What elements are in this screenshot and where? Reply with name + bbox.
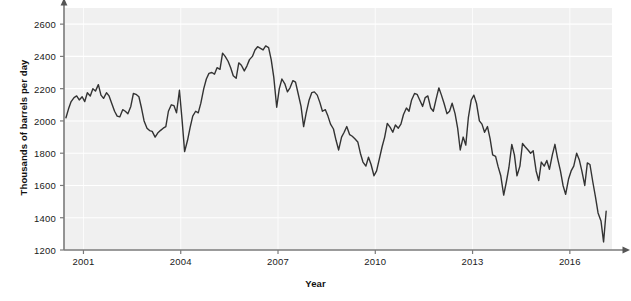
x-tick-label: 2013 [462,256,484,267]
plot-area [64,8,612,250]
x-tick-label: 2007 [267,256,289,267]
data-series-layer [64,8,612,250]
y-tick-label: 2200 [34,83,56,94]
y-tick-label: 2600 [34,19,56,30]
y-tick-label: 1600 [34,180,56,191]
data-line-0 [66,46,606,242]
chart-figure: 12001400160018002000220024002600 2001200… [0,0,631,301]
x-tick-label: 2001 [72,256,94,267]
x-axis-title: Year [0,278,631,289]
y-tick-label: 2000 [34,115,56,126]
y-tick-label: 1400 [34,212,56,223]
y-tick-label: 1200 [34,245,56,256]
y-tick-label: 2400 [34,51,56,62]
x-tick-label: 2004 [170,256,192,267]
y-tick-label: 1800 [34,148,56,159]
x-tick-label: 2016 [559,256,581,267]
y-axis-title: Thousands of barrels per day [18,43,29,213]
x-tick-label: 2010 [364,256,386,267]
